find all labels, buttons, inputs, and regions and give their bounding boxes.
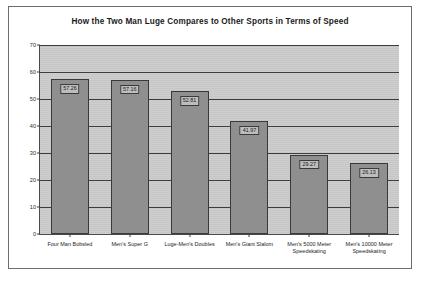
y-axis-tick-label: 10 [30,204,36,210]
bar-value-label: 29.27 [299,160,319,169]
chart-title: How the Two Man Luge Compares to Other S… [9,17,411,26]
bar-slot: 57.16Men's Super G [100,45,160,234]
bar-slot: 52.81Luge-Men's Doubles [160,45,220,234]
x-axis-tick-mark [249,234,250,237]
bar[interactable]: 41.97 [230,121,268,234]
bar-value-label: 52.81 [180,96,200,105]
bar-value-label: 41.97 [240,126,260,135]
bar[interactable]: 57.26 [51,79,89,234]
bar[interactable]: 57.16 [111,80,149,234]
y-axis-tick-label: 60 [30,69,36,75]
plot-area: 010203040506070 57.26Four Man Bobsled57.… [39,45,399,235]
x-axis-tick-mark [309,234,310,237]
x-axis-category-label: Men's 10000 Meter Speedskating [333,241,405,256]
x-axis-tick-mark [189,234,190,237]
y-axis-tick-label: 70 [30,42,36,48]
bar-slot: 26.13Men's 10000 Meter Speedskating [339,45,399,234]
chart-frame: How the Two Man Luge Compares to Other S… [8,6,412,269]
bar-slot: 41.97Men's Giant Slalom [220,45,280,234]
bar-slot: 29.27Men's 5000 Meter Speedskating [279,45,339,234]
bar-value-label: 26.13 [359,168,379,177]
bar[interactable]: 52.81 [171,91,209,234]
bar-value-label: 57.16 [120,85,140,94]
y-axis-tick-label: 30 [30,150,36,156]
y-axis-tick-label: 0 [33,231,36,237]
x-axis-tick-mark [129,234,130,237]
x-axis-tick-mark [69,234,70,237]
y-axis-tick-label: 20 [30,177,36,183]
bar-slot: 57.26Four Man Bobsled [40,45,100,234]
y-axis-tick-label: 40 [30,123,36,129]
y-axis-tick-label: 50 [30,96,36,102]
bar-series: 57.26Four Man Bobsled57.16Men's Super G5… [40,45,399,234]
bar[interactable]: 29.27 [290,155,328,234]
bar[interactable]: 26.13 [350,163,388,234]
bar-value-label: 57.26 [60,84,80,93]
x-axis-tick-mark [369,234,370,237]
